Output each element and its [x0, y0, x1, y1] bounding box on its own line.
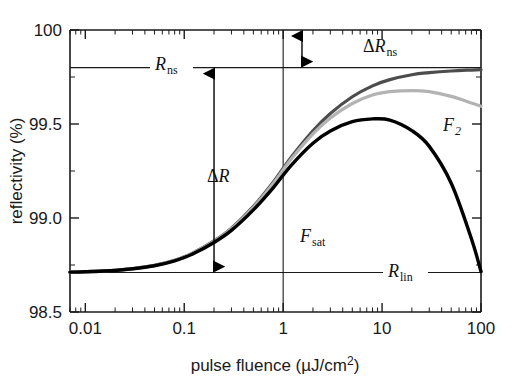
- x-tick-label: 0.01: [69, 319, 102, 338]
- x-tick-label: 1: [278, 319, 287, 338]
- y-tick-label: 99.0: [29, 209, 62, 228]
- y-tick-label: 100: [34, 21, 62, 40]
- delta-r-label: ΔR: [207, 166, 230, 186]
- chart-figure: 0.010.1110100 98.599.099.5100 pulse flue…: [0, 0, 521, 390]
- y-tick-label: 98.5: [29, 303, 62, 322]
- y-axis-title: reflectivity (%): [7, 118, 26, 225]
- x-tick-label: 100: [467, 319, 495, 338]
- x-tick-label: 0.1: [172, 319, 196, 338]
- x-axis-title-text: pulse fluence (µJ/cm: [191, 356, 347, 375]
- x-axis-title: pulse fluence (µJ/cm2): [191, 354, 360, 375]
- y-tick-label: 99.5: [29, 115, 62, 134]
- x-tick-label: 10: [373, 319, 392, 338]
- reflectivity-vs-fluence-plot: 0.010.1110100 98.599.099.5100 pulse flue…: [0, 0, 521, 390]
